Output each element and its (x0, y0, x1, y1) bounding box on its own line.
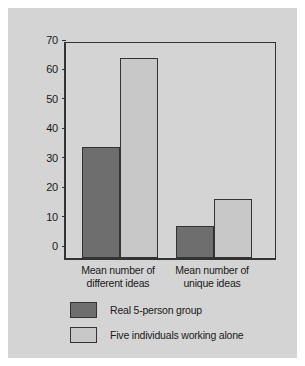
legend-label: Five individuals working alone (110, 329, 244, 341)
legend-item: Real 5-person group (70, 302, 244, 318)
y-axis-tick: 60 (38, 63, 66, 75)
y-axis-tick-mark (62, 98, 66, 99)
y-axis-tick: 50 (38, 93, 66, 105)
y-axis-tick-mark (62, 157, 66, 158)
y-axis-tick-mark (62, 40, 66, 41)
y-axis-tick: 0 (38, 240, 66, 252)
bar (176, 226, 214, 258)
y-axis-tick-label: 60 (38, 63, 58, 75)
y-axis-tick-label: 70 (38, 34, 58, 46)
y-axis-tick: 10 (38, 211, 66, 223)
legend-item: Five individuals working alone (70, 327, 244, 343)
x-axis-category-label-line: unique ideas (157, 277, 267, 290)
plot-area: 010203040506070 (64, 42, 276, 260)
y-axis-tick-label: 50 (38, 93, 58, 105)
chart-legend: Real 5-person groupFive individuals work… (70, 302, 244, 352)
chart-figure: 010203040506070 Mean number ofdifferent … (0, 0, 305, 366)
y-axis-tick: 70 (38, 34, 66, 46)
y-axis-tick: 40 (38, 122, 66, 134)
bar (214, 199, 252, 258)
y-axis-tick: 30 (38, 152, 66, 164)
y-axis-tick-label: 40 (38, 122, 58, 134)
y-axis-tick: 20 (38, 181, 66, 193)
bar (120, 58, 158, 258)
y-axis-tick-label: 10 (38, 211, 58, 223)
bar (82, 147, 120, 258)
y-axis-tick-mark (62, 246, 66, 247)
chart-card: 010203040506070 Mean number ofdifferent … (8, 8, 297, 358)
legend-swatch (70, 302, 97, 318)
y-axis-tick-mark (62, 187, 66, 188)
legend-label: Real 5-person group (110, 304, 202, 316)
x-axis-category-label-line: Mean number of (157, 264, 267, 277)
y-axis-tick-mark (62, 69, 66, 70)
y-axis-tick-label: 0 (38, 240, 58, 252)
y-axis-tick-label: 20 (38, 181, 58, 193)
x-axis-category-label: Mean number ofunique ideas (157, 264, 267, 289)
y-axis-tick-mark (62, 216, 66, 217)
y-axis-tick-mark (62, 128, 66, 129)
legend-swatch (70, 327, 97, 343)
y-axis-tick-label: 30 (38, 152, 58, 164)
